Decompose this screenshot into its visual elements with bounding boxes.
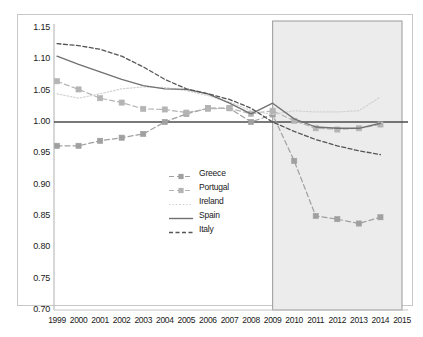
series-marker-greece xyxy=(119,135,124,140)
forecast-shaded-region xyxy=(273,21,402,310)
legend-swatch-icon xyxy=(168,182,194,193)
legend-swatch-icon xyxy=(168,196,194,207)
series-marker-portugal xyxy=(54,79,59,84)
y-tick-label: 0.90 xyxy=(16,179,50,189)
series-marker-greece xyxy=(54,143,59,148)
y-tick-label: 1.05 xyxy=(16,85,50,95)
y-tick-label: 0.80 xyxy=(16,241,50,251)
series-marker-portugal xyxy=(98,96,103,101)
y-tick-label: 1.15 xyxy=(16,22,50,32)
y-tick-label: 0.85 xyxy=(16,210,50,220)
legend-label: Portugal xyxy=(199,182,229,192)
chart-legend: GreecePortugalIrelandSpainItaly xyxy=(168,166,242,236)
series-marker-greece xyxy=(356,221,361,226)
series-marker-greece xyxy=(292,158,297,163)
legend-swatch-icon xyxy=(168,168,194,179)
legend-item-ireland[interactable]: Ireland xyxy=(168,194,242,208)
series-marker-portugal xyxy=(227,106,232,111)
y-tick-label: 1.00 xyxy=(16,116,50,126)
series-marker-greece xyxy=(248,119,253,124)
y-tick-label: 0.70 xyxy=(16,304,50,314)
series-marker-greece xyxy=(141,131,146,136)
series-marker-portugal xyxy=(119,100,124,105)
series-marker-greece xyxy=(76,143,81,148)
legend-item-portugal[interactable]: Portugal xyxy=(168,180,242,194)
legend-item-spain[interactable]: Spain xyxy=(168,208,242,222)
legend-swatch-icon xyxy=(168,224,194,235)
legend-label: Italy xyxy=(199,224,214,234)
legend-label: Spain xyxy=(199,210,220,220)
legend-label: Ireland xyxy=(199,196,224,206)
series-marker-greece xyxy=(98,138,103,143)
legend-label: Greece xyxy=(199,168,226,178)
series-marker-portugal xyxy=(270,108,275,113)
series-marker-greece xyxy=(378,215,383,220)
series-marker-portugal xyxy=(76,87,81,92)
chart-container: 1.151.101.051.000.950.900.850.800.750.70… xyxy=(0,0,423,337)
series-marker-portugal xyxy=(141,106,146,111)
legend-item-greece[interactable]: Greece xyxy=(168,166,242,180)
y-tick-label: 1.10 xyxy=(16,53,50,63)
x-tick-label: 2015 xyxy=(389,315,415,325)
series-marker-portugal xyxy=(184,110,189,115)
series-marker-portugal xyxy=(205,106,210,111)
series-marker-greece xyxy=(162,119,167,124)
y-tick-label: 0.95 xyxy=(16,147,50,157)
series-marker-portugal xyxy=(162,107,167,112)
y-tick-label: 0.75 xyxy=(16,273,50,283)
legend-swatch-icon xyxy=(168,210,194,221)
series-marker-greece xyxy=(335,217,340,222)
series-marker-greece xyxy=(313,213,318,218)
legend-item-italy[interactable]: Italy xyxy=(168,222,242,236)
